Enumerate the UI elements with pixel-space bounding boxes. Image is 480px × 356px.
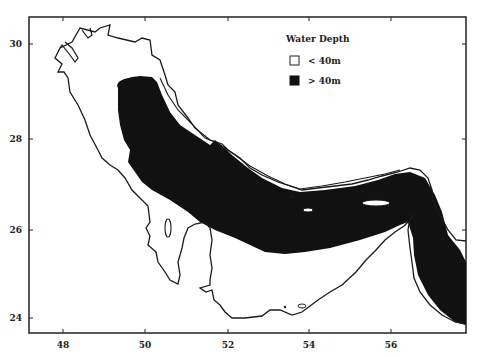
y-tick-label: 30 — [9, 39, 22, 49]
x-tick-label: 48 — [57, 340, 70, 350]
legend: Water Depth < 40m > 40m — [285, 34, 350, 86]
x-tick-label: 50 — [139, 340, 152, 350]
x-tick-label: 54 — [303, 340, 316, 350]
legend-title: Water Depth — [285, 34, 350, 44]
deep-water-region — [117, 76, 466, 325]
y-tick-label: 24 — [9, 313, 22, 323]
x-tick-label: 56 — [385, 340, 398, 350]
y-tick-label: 28 — [9, 134, 22, 144]
bahrain-island — [165, 219, 171, 237]
island — [362, 200, 390, 206]
legend-label-shallow: < 40m — [308, 56, 341, 66]
island — [291, 196, 294, 199]
x-tick-label: 52 — [222, 340, 235, 350]
legend-label-deep: > 40m — [308, 76, 341, 86]
legend-swatch-shallow — [290, 56, 299, 65]
y-tick-label: 26 — [9, 225, 22, 235]
island — [303, 208, 313, 212]
depth-map: 48 50 52 54 56 30 28 26 24 Water Depth <… — [0, 0, 480, 356]
legend-swatch-deep — [290, 76, 299, 85]
island — [298, 304, 306, 308]
island — [284, 306, 286, 308]
